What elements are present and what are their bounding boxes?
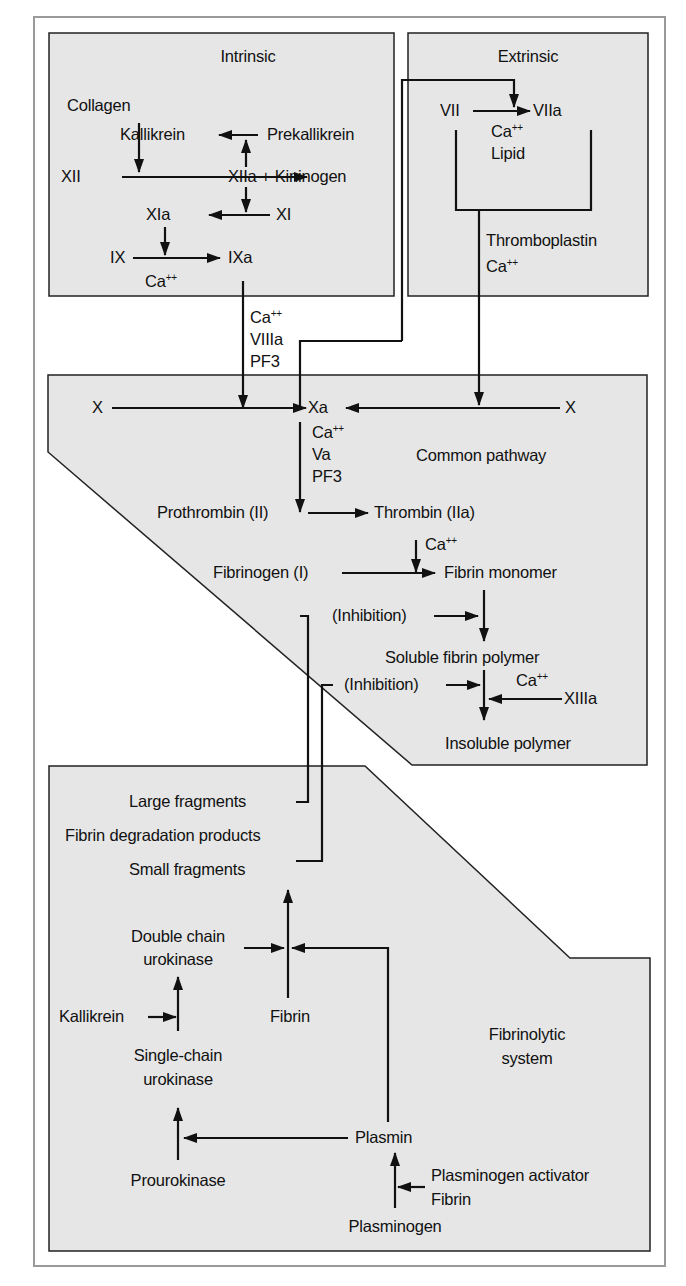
- factor-x-left-label: X: [92, 398, 103, 417]
- ixa-cofactors: Ca++ VIIIa PF3: [250, 306, 283, 372]
- factor-xia-label: XIa: [146, 205, 170, 224]
- intrinsic-title: Intrinsic: [220, 47, 275, 66]
- factor-viia-label: VIIa: [533, 101, 562, 120]
- insoluble-polymer-label: Insoluble polymer: [445, 734, 571, 753]
- coagulation-diagram: Intrinsic Collagen Kallikrein Prekallikr…: [0, 0, 686, 1286]
- factor-xi-label: XI: [276, 205, 291, 224]
- cofactor-pf3: PF3: [250, 350, 283, 372]
- single-chain-label-2: urokinase: [143, 1070, 213, 1089]
- inhibition-label-2: (Inhibition): [344, 675, 419, 694]
- extrinsic-title: Extrinsic: [498, 47, 559, 66]
- fibrinolytic-title-2: system: [501, 1049, 552, 1068]
- fibrinogen-label: Fibrinogen (I): [213, 563, 308, 582]
- xa-cofactors: Ca++ Va PF3: [312, 421, 344, 487]
- common-pathway-title: Common pathway: [416, 446, 546, 465]
- intrinsic-panel: [49, 33, 394, 296]
- factor-xii-label: XII: [61, 167, 81, 186]
- thromboplastin-calcium-label: Ca++: [486, 257, 518, 276]
- plasmin-label: Plasmin: [355, 1128, 412, 1147]
- xa-cofactor-va: Va: [312, 443, 344, 465]
- collagen-label: Collagen: [67, 96, 131, 115]
- plasminogen-label: Plasminogen: [348, 1217, 441, 1236]
- factor-ix-label: IX: [110, 248, 125, 267]
- xa-cofactor-pf3: PF3: [312, 465, 344, 487]
- thrombin-label: Thrombin (IIa): [374, 503, 475, 522]
- prourokinase-label: Prourokinase: [131, 1171, 226, 1190]
- fibrinolytic-title-1: Fibrinolytic: [489, 1025, 565, 1044]
- diagram-shapes: [0, 0, 686, 1286]
- large-fragments-label: Large fragments: [129, 792, 246, 811]
- factor-xa-label: Xa: [308, 398, 328, 417]
- soluble-fibrin-polymer-label: Soluble fibrin polymer: [385, 648, 539, 667]
- factor-vii-label: VII: [440, 101, 460, 120]
- small-fragments-label: Small fragments: [129, 860, 245, 879]
- prothrombin-label: Prothrombin (II): [157, 503, 268, 522]
- xa-cofactor-calcium: Ca++: [312, 421, 344, 443]
- kallikrein-fibrinolytic-label: Kallikrein: [59, 1007, 124, 1026]
- double-chain-label-1: Double chain: [131, 927, 225, 946]
- factor-xiia-kininogen-label: XIIa + Kininogen: [228, 167, 346, 186]
- factor-xiiia-label: XIIIa: [564, 689, 597, 708]
- fibrin-degradation-products-label: Fibrin degradation products: [65, 826, 260, 845]
- single-chain-label-1: Single-chain: [134, 1046, 222, 1065]
- prekallikrein-label: Prekallikrein: [267, 125, 354, 144]
- intrinsic-calcium-label: Ca++: [145, 272, 177, 291]
- thrombin-calcium-label: Ca++: [425, 535, 457, 554]
- fibrin-cofactor-label: Fibrin: [431, 1190, 471, 1209]
- factor-x-right-label: X: [565, 398, 576, 417]
- kallikrein-label: Kallikrein: [120, 125, 185, 144]
- double-chain-label-2: urokinase: [143, 950, 213, 969]
- extrinsic-panel: [408, 33, 648, 296]
- inhibition-label-1: (Inhibition): [332, 606, 407, 625]
- cofactor-calcium: Ca++: [250, 306, 283, 328]
- cofactor-viiia: VIIIa: [250, 328, 283, 350]
- factor-ixa-label: IXa: [228, 248, 252, 267]
- fibrin-label: Fibrin: [270, 1007, 310, 1026]
- plasminogen-activator-label: Plasminogen activator: [431, 1166, 589, 1185]
- thromboplastin-label: Thromboplastin: [486, 231, 597, 250]
- fibrin-monomer-label: Fibrin monomer: [444, 563, 557, 582]
- extrinsic-calcium-label: Ca++: [491, 122, 523, 141]
- lipid-label: Lipid: [491, 144, 525, 163]
- xiiia-calcium-label: Ca++: [516, 671, 548, 690]
